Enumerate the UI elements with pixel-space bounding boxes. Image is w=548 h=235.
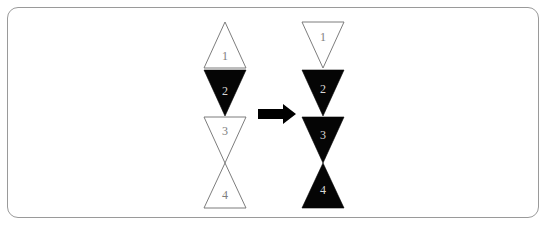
right-triangle-2[interactable]: 2 <box>302 70 344 116</box>
left-triangle-group: 1 2 3 4 <box>204 22 246 208</box>
triangle-diagram: 1 2 3 4 1 <box>0 0 548 235</box>
right-triangle-1-label: 1 <box>320 30 326 44</box>
arrow-icon <box>258 104 296 124</box>
left-triangle-4[interactable]: 4 <box>204 163 246 208</box>
right-triangle-4[interactable]: 4 <box>302 163 344 208</box>
left-triangle-4-label: 4 <box>222 188 228 202</box>
left-triangle-2-label: 2 <box>222 84 228 98</box>
right-triangle-1[interactable]: 1 <box>302 22 344 68</box>
left-triangle-2[interactable]: 2 <box>204 70 246 116</box>
right-triangle-3-label: 3 <box>320 128 326 142</box>
right-triangle-4-label: 4 <box>320 183 326 197</box>
transform-arrow <box>258 104 296 124</box>
right-triangle-group: 1 2 3 4 <box>302 22 344 208</box>
left-triangle-3[interactable]: 3 <box>204 117 246 163</box>
left-triangle-3-label: 3 <box>222 124 228 138</box>
right-triangle-3[interactable]: 3 <box>302 117 344 163</box>
right-triangle-2-label: 2 <box>320 82 326 96</box>
left-triangle-1[interactable]: 1 <box>204 22 246 68</box>
left-triangle-1-label: 1 <box>222 49 228 63</box>
figure-root: 1 2 3 4 1 <box>0 0 548 235</box>
